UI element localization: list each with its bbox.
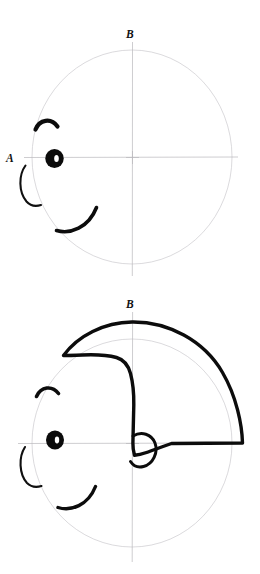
drawing-canvas: B A xyxy=(0,0,260,574)
nose xyxy=(20,166,41,206)
eyebrow xyxy=(37,388,59,397)
label-a-left: A xyxy=(5,152,14,164)
center-cross-mark xyxy=(126,151,139,164)
drawing-sheet: B A xyxy=(0,0,260,574)
label-b-bottom: B xyxy=(125,298,134,310)
figure-top: B A xyxy=(5,28,238,276)
helmet-hair-outline xyxy=(64,322,243,455)
figure-bottom: B xyxy=(18,298,243,562)
eye xyxy=(46,431,64,450)
nose xyxy=(21,447,42,487)
mouth xyxy=(58,487,96,509)
mouth xyxy=(57,208,97,232)
label-b-top: B xyxy=(125,28,134,40)
eye xyxy=(45,149,63,168)
eyebrow xyxy=(36,121,58,130)
